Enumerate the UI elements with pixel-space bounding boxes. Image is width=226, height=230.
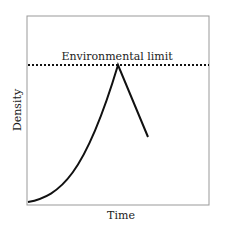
plot-frame xyxy=(27,16,209,205)
environmental-limit-label: Environmental limit xyxy=(61,50,173,63)
y-axis-label: Density xyxy=(11,88,24,131)
density-curve xyxy=(28,65,148,202)
x-axis-label: Time xyxy=(107,209,135,222)
population-chart: Environmental limit Time Density xyxy=(0,0,226,230)
